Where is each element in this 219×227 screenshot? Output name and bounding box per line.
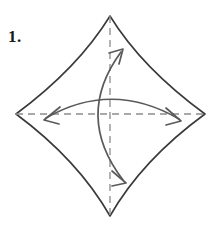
origami-step-figure: 1. Origami step 1 — pre-creased concave …: [0, 0, 219, 227]
origami-diagram: Origami step 1 — pre-creased concave dia…: [0, 0, 219, 227]
